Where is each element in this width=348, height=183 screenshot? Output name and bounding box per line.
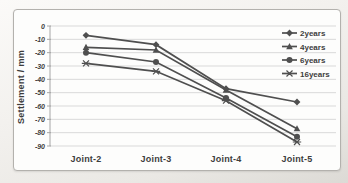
legend-2years-diamond-marker [286, 30, 293, 37]
figure-photo: Settlement / mm 0-10-20-30-40-50-60-70-8… [0, 0, 348, 183]
y-tick-label: 0 [41, 23, 45, 30]
legend-16years-asterisk-marker [285, 71, 293, 77]
y-tick-label: -90 [35, 143, 45, 150]
point-2years-Joint-2-diamond-marker [83, 32, 90, 39]
point-6years-Joint-5-circle-marker [294, 134, 300, 140]
legend-label-4years: 4years [300, 43, 326, 52]
point-6years-Joint-2-circle-marker [83, 50, 89, 56]
y-tick-label: -10 [35, 36, 45, 43]
point-16years-Joint-3-asterisk-marker [152, 68, 160, 74]
point-16years-Joint-2-asterisk-marker [82, 60, 90, 66]
y-tick-label: -70 [35, 116, 45, 123]
series-line-16years [86, 63, 297, 142]
y-tick-label: -80 [35, 129, 45, 136]
y-tick-label: -30 [35, 63, 45, 70]
legend-label-16years: 16years [300, 70, 330, 79]
series-line-4years [86, 47, 297, 128]
legend-label-2years: 2years [300, 29, 326, 38]
point-16years-Joint-5-asterisk-marker [293, 139, 301, 145]
chart-frame: Settlement / mm 0-10-20-30-40-50-60-70-8… [13, 9, 341, 171]
point-2years-Joint-5-diamond-marker [294, 99, 301, 106]
y-tick-label: -60 [35, 103, 45, 110]
x-category-label: Joint-4 [211, 154, 242, 164]
legend-6years-circle-marker [287, 57, 293, 63]
legend-label-6years: 6years [300, 56, 326, 65]
y-tick-label: -20 [35, 49, 45, 56]
x-category-label: Joint-3 [141, 154, 172, 164]
y-tick-label: -40 [35, 76, 45, 83]
series-line-2years [86, 35, 297, 102]
x-category-label: Joint-5 [282, 154, 313, 164]
x-category-label: Joint-2 [71, 154, 102, 164]
y-tick-label: -50 [35, 89, 45, 96]
point-6years-Joint-3-circle-marker [153, 59, 159, 65]
settlement-line-chart: 0-10-20-30-40-50-60-70-80-90Joint-2Joint… [14, 10, 340, 170]
